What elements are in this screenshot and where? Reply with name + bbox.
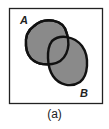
set-a-label: A bbox=[19, 14, 28, 26]
figure-caption: (a) bbox=[0, 107, 109, 121]
set-b-label: B bbox=[80, 87, 88, 99]
